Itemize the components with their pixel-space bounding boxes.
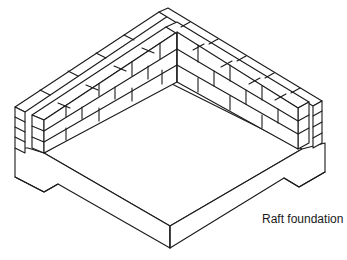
raft-foundation-diagram: Raft foundation — [0, 0, 347, 260]
figure-caption: Raft foundation — [262, 212, 343, 226]
